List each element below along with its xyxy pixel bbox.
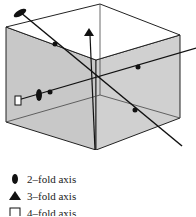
- axis-point: [53, 42, 58, 47]
- four-fold-axis-symbol: [15, 96, 21, 105]
- legend-label: 4–fold axis: [27, 207, 76, 217]
- legend-label: 3–fold axis: [27, 190, 76, 202]
- legend-item-two-fold: 2–fold axis: [6, 170, 76, 187]
- axis-point: [48, 90, 53, 95]
- axis-point: [133, 108, 138, 113]
- square-icon: [6, 207, 24, 217]
- axis-point: [136, 65, 141, 70]
- triangle-icon: [6, 190, 24, 201]
- cube-axes-diagram: [0, 0, 196, 150]
- legend-label: 2–fold axis: [27, 173, 76, 185]
- legend-item-four-fold: 4–fold axis: [6, 204, 76, 216]
- ellipse-icon: [6, 173, 24, 185]
- legend-item-three-fold: 3–fold axis: [6, 187, 76, 204]
- two-fold-axis-symbol: [36, 89, 42, 101]
- legend: 2–fold axis 3–fold axis 4–fold axis: [6, 170, 76, 216]
